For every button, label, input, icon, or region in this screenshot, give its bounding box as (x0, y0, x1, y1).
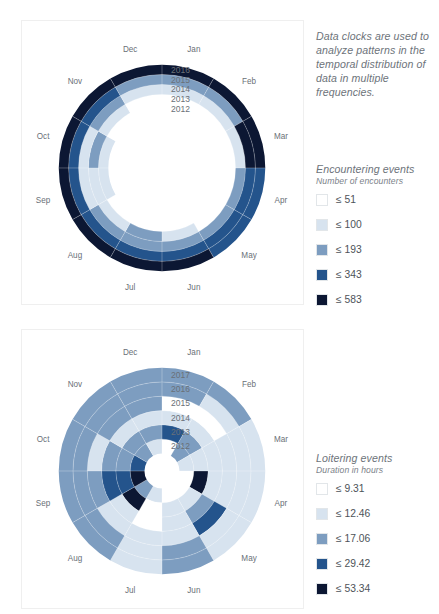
data-clock-infographic: JanFebMarAprMayJunJulAugSepOctNovDec2012… (0, 0, 439, 614)
year-label-2012: 2012 (171, 104, 190, 114)
legend-item-label: ≤ 29.42 (336, 558, 370, 569)
year-label-2014: 2014 (171, 413, 190, 423)
month-label-mar: Mar (274, 435, 288, 444)
legend-item-label: ≤ 193 (336, 244, 362, 255)
legend-item-label: ≤ 53.34 (336, 583, 370, 594)
legend-swatch (316, 194, 328, 206)
month-label-sep: Sep (36, 196, 51, 205)
legend-swatch (316, 483, 328, 495)
month-label-apr: Apr (275, 499, 288, 508)
month-label-nov: Nov (68, 77, 83, 86)
legend-item-label: ≤ 583 (336, 294, 362, 305)
month-label-jul: Jul (125, 586, 136, 595)
year-label-2014: 2014 (171, 84, 190, 94)
legend-item-label: ≤ 100 (336, 219, 362, 230)
month-label-sep: Sep (36, 499, 51, 508)
legend-title: Loitering events (316, 452, 438, 464)
year-label-2015: 2015 (171, 75, 190, 85)
legend-item[interactable]: ≤ 53.34 (316, 580, 438, 597)
legend-item[interactable]: ≤ 12.46 (316, 505, 438, 522)
legend-item[interactable]: ≤ 9.31 (316, 480, 438, 497)
legend-swatch (316, 294, 328, 306)
year-label-2016: 2016 (171, 65, 190, 75)
legend-item[interactable]: ≤ 343 (316, 266, 438, 283)
month-label-dec: Dec (123, 45, 137, 54)
month-label-aug: Aug (68, 251, 82, 260)
legend-item[interactable]: ≤ 100 (316, 216, 438, 233)
month-label-apr: Apr (275, 196, 288, 205)
intro-description: Data clocks are used to analyze patterns… (316, 29, 438, 99)
year-label-2016: 2016 (171, 384, 190, 394)
legend-loitering-events: Loitering events Duration in hours ≤ 9.3… (316, 452, 438, 605)
legend-swatch (316, 219, 328, 231)
legend-swatch (316, 244, 328, 256)
data-clock-ring (98, 104, 225, 231)
legend-item-label: ≤ 9.31 (336, 483, 365, 494)
month-label-jan: Jan (187, 348, 200, 357)
legend-item[interactable]: ≤ 51 (316, 191, 438, 208)
legend-swatch (316, 269, 328, 281)
month-label-jan: Jan (187, 45, 200, 54)
month-label-jun: Jun (187, 586, 200, 595)
month-label-aug: Aug (68, 554, 82, 563)
legend-item-label: ≤ 343 (336, 269, 362, 280)
month-label-jun: Jun (187, 283, 200, 292)
legend-swatch (316, 558, 328, 570)
year-label-2013: 2013 (171, 94, 190, 104)
legend-swatch (316, 508, 328, 520)
legend-item[interactable]: ≤ 17.06 (316, 530, 438, 547)
year-label-2015: 2015 (171, 398, 190, 408)
legend-swatch (316, 583, 328, 595)
month-label-may: May (241, 554, 257, 563)
legend-swatch (316, 533, 328, 545)
month-label-feb: Feb (242, 77, 256, 86)
year-labels: 20122013201420152016 (171, 65, 190, 115)
month-label-jul: Jul (125, 283, 136, 292)
year-label-2013: 2013 (171, 427, 190, 437)
legend-item[interactable]: ≤ 583 (316, 291, 438, 308)
month-label-nov: Nov (68, 380, 83, 389)
encountering-events-chart-card: JanFebMarAprMayJunJulAugSepOctNovDec2012… (21, 20, 304, 305)
legend-encountering-events: Encountering events Number of encounters… (316, 163, 438, 316)
loitering-data-clock-chart[interactable]: JanFebMarAprMayJunJulAugSepOctNovDec2012… (22, 330, 303, 608)
encountering-data-clock-chart[interactable]: JanFebMarAprMayJunJulAugSepOctNovDec2012… (22, 21, 303, 304)
month-label-oct: Oct (37, 435, 50, 444)
legend-item-label: ≤ 51 (336, 194, 356, 205)
year-label-2017: 2017 (171, 370, 190, 380)
legend-item[interactable]: ≤ 29.42 (316, 555, 438, 572)
month-label-oct: Oct (37, 132, 50, 141)
legend-item[interactable]: ≤ 193 (316, 241, 438, 258)
month-label-mar: Mar (274, 132, 288, 141)
legend-item-label: ≤ 12.46 (336, 508, 370, 519)
legend-subtitle: Number of encounters (316, 176, 438, 186)
side-rail: Data clocks are used to analyze patterns… (314, 0, 439, 614)
legend-item-label: ≤ 17.06 (336, 533, 370, 544)
data-clock-ring (88, 94, 235, 241)
year-label-2012: 2012 (171, 441, 190, 451)
month-label-may: May (241, 251, 257, 260)
month-label-feb: Feb (242, 380, 256, 389)
month-label-dec: Dec (123, 348, 137, 357)
legend-title: Encountering events (316, 163, 438, 175)
loitering-events-chart-card: JanFebMarAprMayJunJulAugSepOctNovDec2012… (21, 329, 304, 609)
legend-subtitle: Duration in hours (316, 465, 438, 475)
